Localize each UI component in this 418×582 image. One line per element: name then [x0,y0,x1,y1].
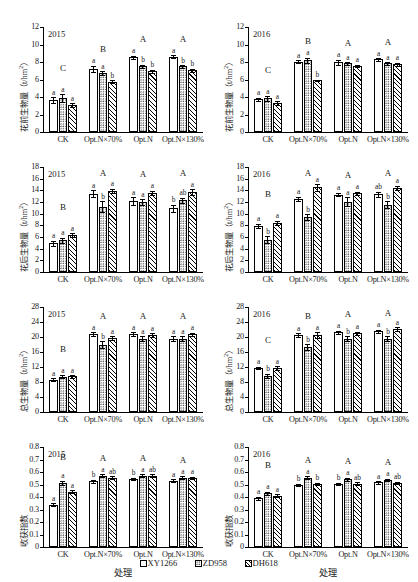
error-bar-cap [345,478,350,479]
significance-letter: a [257,488,260,495]
y-tick-label: 0.3 [234,505,244,513]
y-tick [245,472,248,473]
error-bar-cap [336,485,341,486]
panel-harvest-index-2016: 2016收获指数CKOpt.N×70%Opt.NOpt.N×130%00.10.… [0,0,418,582]
x-axis [248,547,408,548]
error-bar-cap [355,485,360,486]
bar-ZD958 [384,480,392,547]
significance-letter: ab [354,474,361,481]
error-bar-cap [385,479,390,480]
significance-letter: a [306,468,309,475]
figure-root: 2015花前生物量（t/hm2）CKOpt.N×70%Opt.NOpt.N×13… [0,0,418,582]
y-tick [245,485,248,486]
error-bar-cap [256,500,261,501]
y-axis [248,447,249,547]
significance-letter: a [276,486,279,493]
error-bar-cap [305,479,310,480]
bar-DH618 [393,483,401,547]
bar-ZD958 [264,493,272,547]
y-tick [245,460,248,461]
bar-DH618 [313,484,321,547]
y-tick-label: 0.7 [234,455,244,463]
significance-letter: b [297,475,301,482]
legend-label: DH618 [253,558,278,568]
error-bar-cap [345,481,350,482]
y-axis-title: 收获指数 [222,515,234,547]
legend-item-ZD958: ZD958 [195,558,227,568]
legend-label: XY1266 [148,558,178,568]
group-significance-label: A [305,456,312,465]
legend-swatch-XY1266 [140,560,147,567]
error-bar-cap [376,484,381,485]
error-bar-cap [376,481,381,482]
error-bar-cap [336,483,341,484]
significance-letter: a [377,473,380,480]
y-tick-label: 0.4 [234,493,244,501]
y-tick-label: 0.8 [234,443,244,451]
legend: XY1266ZD958DH618 [0,558,418,568]
error-bar-cap [296,486,301,487]
error-bar-cap [296,484,301,485]
error-bar-cap [315,483,320,484]
significance-letter: a [266,483,269,490]
y-tick-label: 0.1 [234,530,244,538]
significance-letter: b [316,474,320,481]
bar-XY1266 [294,485,302,547]
y-tick-label: 0.6 [234,468,244,476]
significance-letter: a [346,469,349,476]
error-bar-cap [395,482,400,483]
y-tick [245,522,248,523]
bar-XY1266 [334,484,342,547]
bar-XY1266 [374,482,382,547]
plot-area: 00.10.20.30.40.50.60.70.8aaaBbabAbaabAaa… [248,447,408,547]
bar-ZD958 [344,479,352,547]
error-bar-cap [385,481,390,482]
error-bar-cap [256,497,261,498]
y-tick-label: 0.5 [234,480,244,488]
error-bar-cap [275,497,280,498]
error-bar-cap [355,482,360,483]
group-significance-label: A [385,458,392,467]
legend-label: ZD958 [203,558,227,568]
error-bar-cap [265,492,270,493]
bar-DH618 [273,496,281,547]
bar-XY1266 [254,498,262,547]
y-tick [245,497,248,498]
legend-item-DH618: DH618 [245,558,278,568]
significance-letter: ab [394,473,401,480]
bar-ZD958 [304,478,312,547]
significance-letter: b [337,474,341,481]
legend-item-XY1266: XY1266 [140,558,177,568]
error-bar-cap [315,485,320,486]
error-bar-cap [305,476,310,477]
error-bar-cap [275,494,280,495]
bar-DH618 [353,484,361,548]
y-tick [245,447,248,448]
error-bar-cap [395,484,400,485]
y-tick-label: 0 [240,543,244,551]
y-tick [245,547,248,548]
error-bar-cap [265,495,270,496]
legend-swatch-DH618 [245,560,252,567]
y-tick [245,535,248,536]
y-tick [245,510,248,511]
y-tick-label: 0.2 [234,518,244,526]
group-significance-label: B [265,461,271,470]
legend-swatch-ZD958 [195,560,202,567]
significance-letter: a [386,470,389,477]
group-significance-label: A [345,457,352,466]
